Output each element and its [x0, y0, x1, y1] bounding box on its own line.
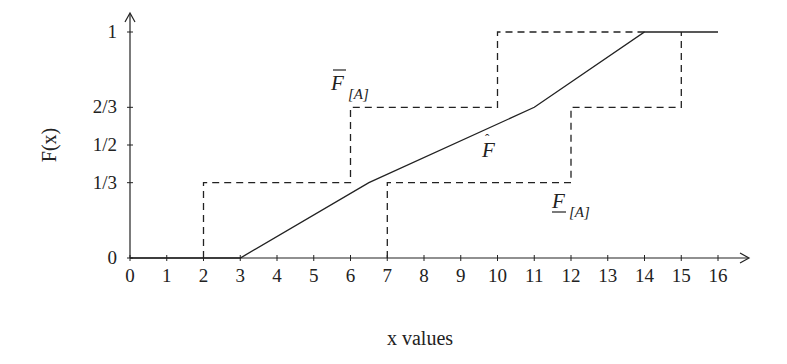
lower-bound-line [387, 32, 681, 258]
axes: 01234567891011121314151601/31/22/31 [93, 13, 749, 286]
x-tick-label: 8 [419, 265, 429, 286]
y-tick-label: 0 [108, 247, 118, 268]
y-axis-title: F(x) [38, 128, 61, 162]
x-tick-label: 9 [456, 265, 466, 286]
series-layer [130, 32, 718, 258]
x-tick-label: 1 [162, 265, 172, 286]
x-tick-label: 15 [672, 265, 691, 286]
upper-bound-label-sub: [A] [348, 86, 369, 102]
x-axis-title: x values [387, 327, 453, 349]
upper-bound-line [204, 32, 645, 258]
upper-bound-label: F [A] [330, 70, 369, 102]
x-tick-label: 0 [125, 265, 135, 286]
y-tick-label: 1/2 [93, 134, 117, 155]
lower-bound-label-main: F [551, 189, 565, 213]
y-tick-label: 1/3 [93, 172, 117, 193]
x-tick-label: 5 [309, 265, 319, 286]
y-tick-label: 2/3 [93, 96, 117, 117]
x-tick-label: 7 [383, 265, 393, 286]
x-tick-label: 2 [199, 265, 209, 286]
x-tick-label: 14 [635, 265, 655, 286]
x-tick-label: 16 [709, 265, 728, 286]
y-tick-label: 1 [108, 21, 118, 42]
estimate-line [130, 32, 718, 258]
x-tick-label: 3 [236, 265, 246, 286]
x-tick-label: 4 [272, 265, 282, 286]
x-tick-label: 6 [346, 265, 356, 286]
x-tick-label: 11 [525, 265, 543, 286]
x-tick-label: 10 [488, 265, 507, 286]
cdf-bounds-chart: 01234567891011121314151601/31/22/31 F(x)… [0, 0, 787, 364]
upper-bound-label-main: F [330, 71, 344, 95]
lower-bound-label: F [A] [551, 189, 590, 220]
x-tick-label: 12 [562, 265, 581, 286]
labels-layer: F(x) x values F [A] ˆ F F [A] [38, 70, 590, 349]
x-tick-label: 13 [598, 265, 617, 286]
lower-bound-label-sub: [A] [569, 204, 590, 220]
estimate-label: ˆ F [481, 131, 495, 162]
estimate-label-main: F [481, 138, 495, 162]
